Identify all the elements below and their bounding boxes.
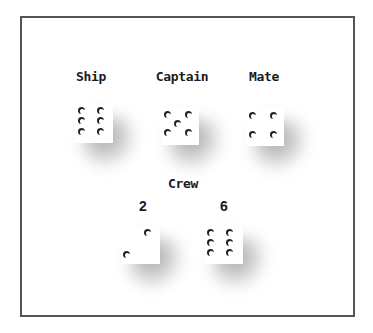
crew-label: Crew <box>168 177 198 191</box>
crew-die-2 <box>205 226 243 264</box>
pip <box>78 128 85 135</box>
pip <box>97 107 104 114</box>
pip <box>249 131 256 138</box>
captain-die <box>161 107 199 145</box>
die-face-four <box>246 108 284 146</box>
ship-die <box>75 105 113 143</box>
die-face-five <box>161 107 199 145</box>
pip <box>270 131 277 138</box>
crew-die-1 <box>122 226 160 264</box>
pip <box>78 107 85 114</box>
ship-label: Ship <box>76 70 106 84</box>
die-face-six <box>75 105 113 143</box>
pip <box>207 249 214 256</box>
pip <box>185 129 192 136</box>
mate-die <box>246 108 284 146</box>
pip <box>207 239 214 246</box>
pip <box>164 129 171 136</box>
pip <box>123 251 130 258</box>
pip <box>226 239 233 246</box>
crew-die-1-value: 2 <box>139 199 147 213</box>
pip <box>226 249 233 256</box>
pip <box>78 117 85 124</box>
pip <box>144 229 151 236</box>
captain-label: Captain <box>156 70 209 84</box>
pip <box>226 229 233 236</box>
pip <box>97 128 104 135</box>
pip <box>249 112 256 119</box>
pip <box>270 112 277 119</box>
pip <box>185 111 192 118</box>
pip <box>164 111 171 118</box>
die-face-six <box>205 226 243 264</box>
pip <box>174 120 181 127</box>
pip <box>207 229 214 236</box>
mate-label: Mate <box>249 70 279 84</box>
crew-die-2-value: 6 <box>220 199 228 213</box>
die-face-two <box>122 226 160 264</box>
pip <box>97 117 104 124</box>
